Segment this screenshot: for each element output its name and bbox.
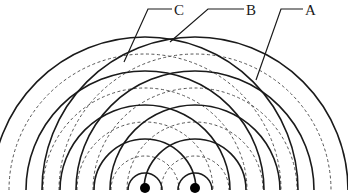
label-c: C: [174, 2, 184, 18]
crest-wavefronts: [0, 37, 348, 190]
label-b: B: [246, 2, 256, 18]
diagram-canvas: C B A: [0, 0, 348, 195]
source-dot: [140, 183, 150, 193]
label-a: A: [305, 2, 316, 18]
crest-arc: [42, 37, 348, 190]
leader-line-a: [256, 9, 303, 80]
wave-sources: [140, 183, 200, 193]
point-labels: C B A: [174, 2, 316, 18]
source-dot: [190, 183, 200, 193]
interference-diagram: C B A: [0, 0, 348, 195]
label-leader-lines: [124, 9, 303, 80]
